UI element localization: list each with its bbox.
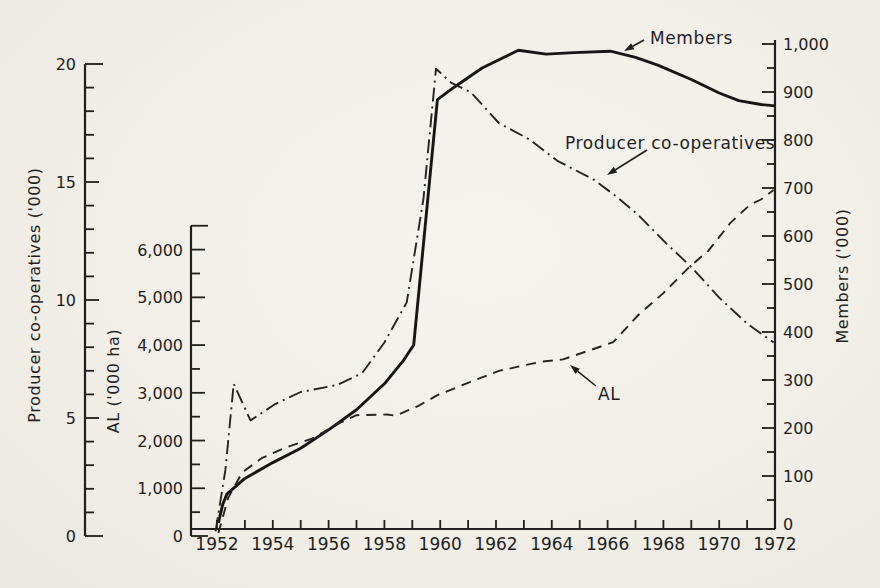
x-tick-label: 1968 <box>642 534 685 554</box>
members-axis-title: Members ('000) <box>833 208 852 343</box>
al-series-label: AL <box>598 384 620 404</box>
al-tick-label: 6,000 <box>137 241 183 260</box>
al-tick-label: 3,000 <box>137 384 183 403</box>
x-tick-label: 1956 <box>307 534 350 554</box>
producer-coops-axis-title: Producer co-operatives ('000) <box>25 167 44 422</box>
producer-coops-label-arrow-head <box>607 167 617 175</box>
line-chart-figure: 1952195419561958196019621964196619681970… <box>0 0 880 588</box>
x-tick-label: 1972 <box>753 534 796 554</box>
text-layer: Producer co-operatives ('000) AL ('000 h… <box>25 28 852 433</box>
producer-coops-series-label: Producer co-operatives <box>565 133 775 153</box>
producer-coops-tick-label: 5 <box>66 409 76 428</box>
producer-coops-tick-label: 20 <box>56 55 76 74</box>
members-tick-label: 900 <box>783 83 814 102</box>
x-tick-label: 1966 <box>586 534 629 554</box>
axes-layer: 1952195419561958196019621964196619681970… <box>56 35 829 554</box>
producer-coops-tick-label: 10 <box>56 291 76 310</box>
x-tick-label: 1962 <box>474 534 517 554</box>
x-tick-label: 1960 <box>419 534 462 554</box>
al-tick-label: 5,000 <box>137 288 183 307</box>
members-label-arrow <box>633 40 644 46</box>
members-tick-label: 400 <box>783 323 814 342</box>
al-tick-label: 1,000 <box>137 479 183 498</box>
al-tick-label: 2,000 <box>137 432 183 451</box>
x-tick-label: 1958 <box>363 534 406 554</box>
members-tick-label: 500 <box>783 275 814 294</box>
al-axis-title: AL ('000 ha) <box>104 329 123 434</box>
chart-canvas: 1952195419561958196019621964196619681970… <box>0 0 880 588</box>
producer-coops-tick-label: 15 <box>56 173 76 192</box>
annotation-layer <box>570 40 647 386</box>
x-tick-label: 1954 <box>251 534 294 554</box>
members-tick-label: 100 <box>783 467 814 486</box>
members-tick-label: 800 <box>783 131 814 150</box>
x-tick-label: 1964 <box>530 534 573 554</box>
al-line <box>218 190 773 533</box>
members-label-arrow-head <box>624 43 634 51</box>
x-tick-label: 1970 <box>698 534 741 554</box>
producer-coops-tick-label: 0 <box>66 527 76 546</box>
al-tick-label: 0 <box>173 527 183 546</box>
members-series-label: Members <box>650 28 733 48</box>
series-layer <box>216 50 775 533</box>
members-tick-label: 600 <box>783 227 814 246</box>
members-tick-label: 0 <box>783 515 793 534</box>
members-tick-label: 700 <box>783 179 814 198</box>
members-tick-label: 1,000 <box>783 35 829 54</box>
members-tick-label: 300 <box>783 371 814 390</box>
x-tick-label: 1952 <box>195 534 238 554</box>
al-label-arrow <box>578 371 596 386</box>
al-tick-label: 4,000 <box>137 336 183 355</box>
members-tick-label: 200 <box>783 419 814 438</box>
